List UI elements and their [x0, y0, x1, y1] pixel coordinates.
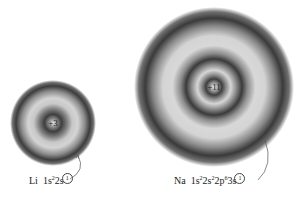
na-circled-electron: 1 — [234, 173, 245, 184]
electron-cloud-diagram: +3 +11 — [0, 0, 304, 199]
li-config-label: Li 1s22s1 — [29, 173, 73, 186]
na-symbol: Na — [174, 175, 186, 186]
na-atom: +11 — [134, 7, 294, 180]
na-orbital-2p: 2p — [214, 175, 224, 186]
li-atom: +3 — [10, 80, 96, 179]
na-nucleus-charge: +11 — [207, 82, 221, 92]
na-orbital-1s: 1s — [191, 175, 200, 186]
li-symbol: Li — [29, 175, 38, 186]
li-nucleus-charge: +3 — [48, 118, 58, 128]
li-orbital-1s: 1s — [43, 175, 52, 186]
li-circled-electron: 1 — [62, 173, 73, 184]
na-config-label: Na 1s22s22p63s1 — [174, 173, 245, 186]
